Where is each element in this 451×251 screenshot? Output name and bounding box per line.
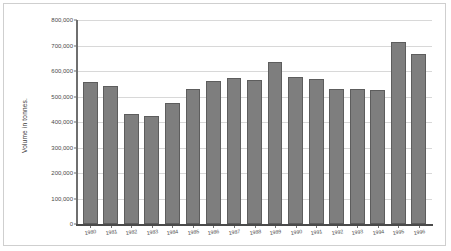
bar[interactable] xyxy=(206,81,221,224)
x-axis-tick-label: 1989 xyxy=(269,228,281,236)
x-axis-tick xyxy=(316,226,317,228)
bar[interactable] xyxy=(103,86,118,224)
x-axis-slot: 1983 xyxy=(142,226,163,246)
bar-slot xyxy=(80,20,101,224)
bar-slot xyxy=(306,20,327,224)
x-axis-slot: 1992 xyxy=(326,226,347,246)
x-axis-slot: 1984 xyxy=(162,226,183,246)
bar-slot xyxy=(224,20,245,224)
bar-slot xyxy=(203,20,224,224)
x-axis-slot: 1986 xyxy=(203,226,224,246)
bar[interactable] xyxy=(83,82,98,224)
x-axis-slot: 1980 xyxy=(80,226,101,246)
x-axis-tick-label: 1984 xyxy=(167,228,179,236)
x-axis-tick-label: 1986 xyxy=(208,228,220,236)
x-axis-slot: 1981 xyxy=(101,226,122,246)
x-axis-tick xyxy=(419,226,420,228)
x-axis-tick-label: 1987 xyxy=(228,228,240,236)
x-axis-slot: 1982 xyxy=(121,226,142,246)
bar[interactable] xyxy=(165,103,180,224)
x-axis-tick xyxy=(152,226,153,228)
bar[interactable] xyxy=(124,114,139,224)
bar-slot xyxy=(388,20,409,224)
x-axis-tick xyxy=(337,226,338,228)
bar[interactable] xyxy=(186,89,201,224)
bar-slot xyxy=(326,20,347,224)
y-axis-tick-label: 100,000 xyxy=(51,196,73,202)
bar[interactable] xyxy=(370,90,385,224)
x-axis-tick-label: 1996 xyxy=(413,228,425,236)
x-axis-tick-label: 1982 xyxy=(126,228,138,236)
x-axis-tick xyxy=(296,226,297,228)
bar-slot xyxy=(285,20,306,224)
x-axis-slot: 1985 xyxy=(183,226,204,246)
x-axis-slot: 1991 xyxy=(306,226,327,246)
y-axis-tick-label: 500,000 xyxy=(51,94,73,100)
y-axis-title: Volume in tonnes. xyxy=(18,4,32,247)
chart-frame: Volume in tonnes. 0100,000200,000300,000… xyxy=(3,3,446,246)
plot-area: 0100,000200,000300,000400,000500,000600,… xyxy=(77,20,432,224)
bar-slot xyxy=(265,20,286,224)
bar[interactable] xyxy=(144,116,159,224)
x-axis-slot: 1987 xyxy=(224,226,245,246)
bar[interactable] xyxy=(268,62,283,224)
x-axis-slot: 1989 xyxy=(265,226,286,246)
x-axis-slot: 1994 xyxy=(367,226,388,246)
y-axis-tick-label: 200,000 xyxy=(51,170,73,176)
bar-slot xyxy=(162,20,183,224)
bar-slot xyxy=(183,20,204,224)
x-axis-tick xyxy=(131,226,132,228)
bar-series xyxy=(77,20,432,224)
x-axis-slot: 1990 xyxy=(285,226,306,246)
x-axis-slot: 1995 xyxy=(388,226,409,246)
y-axis-tick-label: 0 xyxy=(70,221,73,227)
x-axis-tick-label: 1990 xyxy=(290,228,302,236)
x-axis-tick-label: 1992 xyxy=(331,228,343,236)
bar-slot xyxy=(244,20,265,224)
x-axis-tick-label: 1994 xyxy=(372,228,384,236)
bar[interactable] xyxy=(391,42,406,224)
x-axis-tick-label: 1995 xyxy=(393,228,405,236)
bar[interactable] xyxy=(288,77,303,224)
bar[interactable] xyxy=(227,78,242,224)
x-axis-tick-label: 1991 xyxy=(310,228,322,236)
x-axis-tick xyxy=(111,226,112,228)
x-axis-tick xyxy=(255,226,256,228)
y-axis-tick-label: 800,000 xyxy=(51,17,73,23)
x-axis-tick-labels: 1980198119821983198419851986198719881989… xyxy=(77,226,432,246)
y-axis-tick-label: 600,000 xyxy=(51,68,73,74)
bar-slot xyxy=(367,20,388,224)
x-axis-slot: 1996 xyxy=(409,226,430,246)
bar[interactable] xyxy=(329,89,344,224)
bar-slot xyxy=(101,20,122,224)
y-axis-tick-label: 400,000 xyxy=(51,119,73,125)
y-axis-tick-label: 700,000 xyxy=(51,43,73,49)
x-axis-tick xyxy=(398,226,399,228)
x-axis-tick xyxy=(378,226,379,228)
x-axis-slot: 1993 xyxy=(347,226,368,246)
x-axis-tick-label: 1983 xyxy=(146,228,158,236)
y-axis-tick-label: 300,000 xyxy=(51,145,73,151)
bar-slot xyxy=(409,20,430,224)
x-axis-tick xyxy=(357,226,358,228)
x-axis-tick xyxy=(90,226,91,228)
bar-slot xyxy=(142,20,163,224)
x-axis-slot: 1988 xyxy=(244,226,265,246)
x-axis-tick-label: 1980 xyxy=(85,228,97,236)
bar[interactable] xyxy=(411,54,426,224)
x-axis-tick xyxy=(234,226,235,228)
x-axis-tick xyxy=(275,226,276,228)
x-axis-tick-label: 1985 xyxy=(187,228,199,236)
bar[interactable] xyxy=(350,89,365,224)
bar-slot xyxy=(347,20,368,224)
bar[interactable] xyxy=(309,79,324,224)
x-axis-tick xyxy=(193,226,194,228)
x-axis-tick-label: 1993 xyxy=(351,228,363,236)
x-axis-tick-label: 1981 xyxy=(105,228,117,236)
y-axis-title-label: Volume in tonnes. xyxy=(22,98,29,153)
bar[interactable] xyxy=(247,80,262,224)
x-axis-tick-label: 1988 xyxy=(249,228,261,236)
bar-slot xyxy=(121,20,142,224)
